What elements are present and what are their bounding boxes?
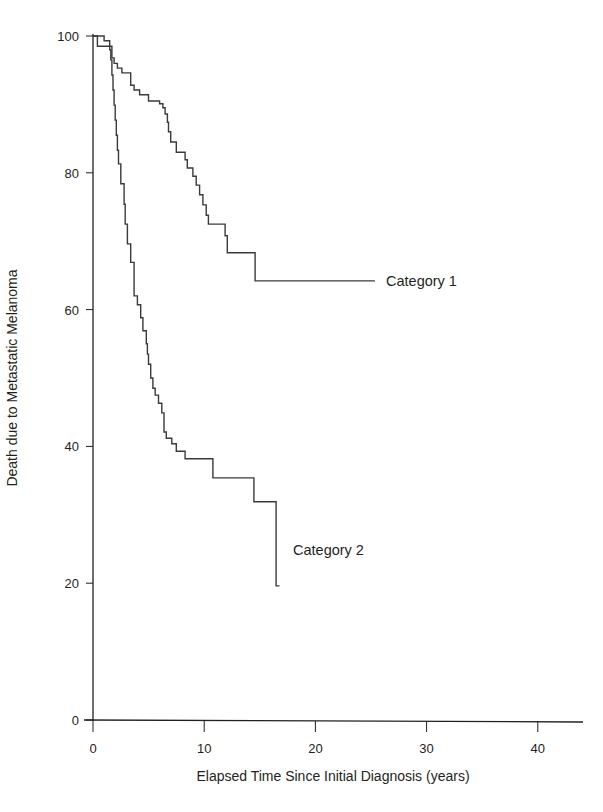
- x-ticks: 010203040: [89, 721, 545, 756]
- series-label-category-1: Category 1: [386, 273, 457, 289]
- y-tick-label: 100: [57, 29, 79, 44]
- x-tick-label: 40: [531, 741, 545, 756]
- series-label-category-2: Category 2: [293, 542, 364, 558]
- y-tick-label: 20: [65, 576, 79, 591]
- x-tick-label: 30: [419, 741, 433, 756]
- y-tick-label: 40: [65, 439, 79, 454]
- x-tick-label: 10: [197, 741, 211, 756]
- series-line-category-2: [93, 36, 280, 586]
- y-tick-label: 60: [65, 303, 79, 318]
- x-tick-label: 0: [89, 741, 96, 756]
- series-line-category-1: [93, 36, 375, 281]
- y-tick-label: 80: [65, 166, 79, 181]
- x-axis: [84, 720, 583, 722]
- axes: 020406080100 010203040: [57, 29, 583, 756]
- series-lines: [93, 36, 375, 586]
- kaplan-meier-chart: 020406080100 010203040 Elapsed Time Sinc…: [0, 0, 603, 812]
- y-tick-label: 0: [72, 713, 79, 728]
- x-tick-label: 20: [308, 741, 322, 756]
- y-axis-title: Death due to Metastatic Melanoma: [4, 269, 20, 486]
- x-axis-title: Elapsed Time Since Initial Diagnosis (ye…: [196, 768, 469, 784]
- y-ticks: 020406080100: [57, 29, 93, 728]
